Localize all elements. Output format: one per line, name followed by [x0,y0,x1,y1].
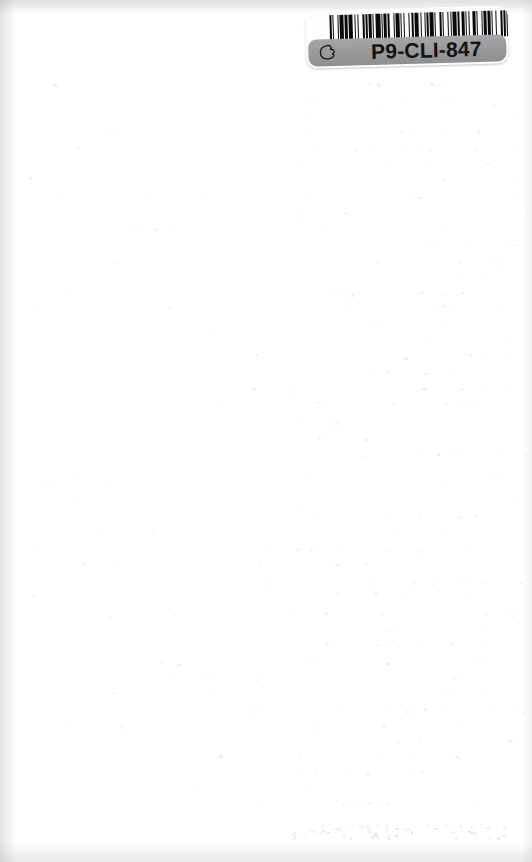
bleed-through-fleck [405,358,408,360]
bleed-through-fleck [484,690,486,691]
bleed-through-fleck [444,83,445,86]
bleed-through-fleck [324,612,327,615]
bleed-through-fleck [462,454,466,456]
bleed-through-fleck [73,501,76,502]
bleed-through-fleck [116,563,117,564]
bleed-through-fleck [464,354,467,356]
bleed-through-fleck [260,801,262,804]
bleed-through-fleck [259,563,261,564]
bleed-through-fleck [417,550,419,553]
bleed-through-fleck [329,423,331,425]
bleed-through-fleck [319,148,321,149]
bleed-through-fleck [475,515,477,518]
bleed-through-fleck [422,388,426,390]
bleed-through-fleck [502,264,504,266]
bleed-through-fleck [451,643,454,645]
barcode-label[interactable]: P9-CLI-847 [305,5,509,69]
bleed-through-fleck [343,710,344,712]
bleed-through-fleck [458,757,460,760]
bleed-through-fleck [322,825,324,827]
bleed-through-fleck [475,836,478,838]
bleed-through-fleck [371,836,375,839]
bleed-through-fleck [444,403,448,405]
bleed-through-fleck [218,401,220,403]
bleed-through-fleck [419,740,421,742]
bleed-through-fleck [513,198,515,200]
bleed-through-fleck [512,709,516,710]
bleed-through-fleck [412,197,413,199]
bleed-through-fleck [344,212,347,214]
bleed-through-fleck [425,373,428,375]
bleed-through-fleck [396,835,399,837]
bleed-through-fleck [406,711,409,713]
bleed-through-fleck [340,532,341,533]
bleed-through-fleck [450,307,451,309]
bleed-through-fleck [252,711,254,713]
bleed-through-fleck [432,583,434,585]
bleed-through-fleck [509,740,512,742]
bleed-through-fleck [506,390,507,393]
bleed-through-fleck [69,295,71,297]
bleed-through-fleck [444,825,448,826]
bleed-through-fleck [401,837,403,840]
bleed-through-fleck [386,663,390,665]
bleed-through-fleck [366,773,370,774]
bleed-through-fleck [316,402,320,404]
bleed-through-fleck [462,725,464,726]
bleed-through-fleck [400,131,403,133]
bleed-through-fleck [342,835,347,838]
bleed-through-fleck [376,261,378,263]
bleed-through-fleck [523,454,526,456]
bleed-through-fleck [268,582,269,585]
bleed-through-fleck [154,229,158,230]
bleed-through-fleck [368,802,372,804]
bleed-through-fleck [376,754,377,757]
bleed-through-fleck [431,243,433,245]
bleed-through-fleck [443,532,445,533]
bleed-through-fleck [430,83,434,86]
bleed-through-fleck [344,308,345,310]
bleed-through-fleck [419,516,422,518]
bleed-through-fleck [419,549,422,550]
bleed-through-fleck [466,596,468,598]
bleed-through-fleck [468,830,471,832]
bleed-through-fleck [453,455,456,456]
bleed-through-fleck [411,774,414,776]
bleed-through-fleck [177,664,181,666]
bleed-through-fleck [497,837,500,840]
bleed-through-fleck [330,423,331,424]
bleed-through-fleck [38,305,40,306]
bleed-through-fleck [461,830,463,831]
bleed-through-fleck [293,835,297,838]
bleed-through-fleck [471,826,473,828]
bleed-through-fleck [455,837,457,840]
bleed-through-fleck [343,804,345,806]
bleed-through-fleck [309,829,312,831]
bleed-through-fleck [486,388,487,390]
bleed-through-fleck [402,594,404,596]
bleed-through-fleck [388,824,390,825]
bleed-through-fleck [473,402,475,404]
bleed-through-fleck [386,832,388,833]
bleed-through-fleck [37,548,39,551]
bleed-through-fleck [336,800,339,802]
bleed-through-fleck [359,801,360,803]
bleed-through-fleck [297,549,300,552]
bleed-through-fleck [161,661,164,664]
bleed-through-fleck [298,504,300,505]
bleed-through-fleck [348,772,351,774]
bleed-through-fleck [459,487,461,489]
barcode-label-code: P9-CLI-847 [352,35,501,64]
bleed-through-fleck [364,456,367,458]
bleed-through-fleck [336,837,337,839]
bleed-through-fleck [433,305,436,306]
bleed-through-fleck [416,454,418,455]
bleed-through-fleck [305,834,307,835]
bleed-through-fleck [240,677,241,678]
bleed-through-fleck [53,84,57,86]
bleed-through-fleck [401,102,402,104]
bleed-through-fleck [133,229,137,231]
bleed-through-fleck [152,531,154,534]
bleed-through-fleck [169,678,170,680]
bleed-through-fleck [368,583,370,586]
